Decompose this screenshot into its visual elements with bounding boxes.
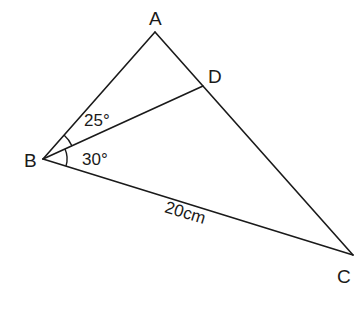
angle-arc-abd: [64, 135, 72, 146]
segment-ab: [43, 32, 155, 159]
angle-label-abd: 25°: [84, 111, 110, 130]
angle-arc-dbc: [65, 149, 67, 166]
vertex-label-b: B: [24, 150, 37, 171]
length-label-bc: 20cm: [163, 198, 208, 228]
segment-bd: [43, 86, 203, 159]
triangle-diagram: A B C D 25° 30° 20cm: [0, 0, 363, 313]
vertex-label-a: A: [149, 8, 162, 29]
angle-label-dbc: 30°: [82, 150, 108, 169]
vertex-label-c: C: [337, 266, 351, 287]
vertex-label-d: D: [208, 66, 222, 87]
